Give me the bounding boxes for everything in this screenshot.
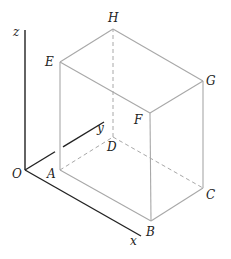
- z-axis-label: z: [12, 25, 20, 39]
- vertex-label-e: E: [44, 55, 54, 69]
- hidden-edges: [60, 29, 203, 188]
- visible-edges: [60, 29, 203, 221]
- vertex-label-b: B: [145, 225, 155, 239]
- edge-BC: [151, 188, 203, 221]
- edge-EH: [60, 29, 113, 62]
- edge-GF: [150, 81, 203, 113]
- edge-HG: [113, 29, 203, 81]
- origin-label: O: [12, 167, 22, 181]
- edge-AB: [60, 170, 151, 221]
- vertex-label-f: F: [133, 113, 143, 127]
- y-axis-label: y: [96, 121, 104, 135]
- vertex-label-h: H: [107, 11, 119, 25]
- labels: OxyzABCDEFGH: [12, 11, 216, 248]
- hidden-edge-DC: [113, 137, 203, 188]
- vertex-label-g: G: [206, 74, 216, 88]
- edge-FE: [60, 62, 150, 113]
- x-axis-label: x: [130, 234, 137, 248]
- x-axis: [25, 170, 141, 236]
- diagram-canvas: OxyzABCDEFGH: [0, 0, 231, 259]
- hidden-edge-AD: [60, 137, 113, 170]
- box-diagram-svg: OxyzABCDEFGH: [0, 0, 231, 259]
- edge-FB: [150, 113, 151, 221]
- vertex-label-a: A: [46, 167, 56, 181]
- vertex-label-c: C: [206, 188, 215, 202]
- vertex-label-d: D: [106, 140, 117, 154]
